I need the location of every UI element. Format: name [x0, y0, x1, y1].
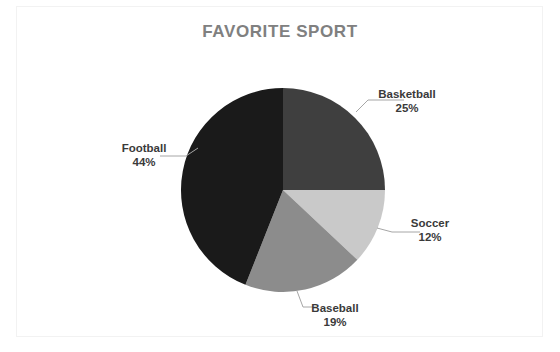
slice-label-baseball-name: Baseball [311, 302, 358, 314]
slice-label-soccer-name: Soccer [411, 217, 449, 229]
slice-label-football-percent: 44% [108, 155, 180, 169]
slice-label-football: Football 44% [108, 141, 180, 169]
pie-graphic [0, 0, 560, 352]
slice-label-soccer-percent: 12% [398, 230, 462, 244]
slice-label-football-name: Football [122, 142, 167, 154]
slice-label-basketball-name: Basketball [378, 88, 436, 100]
slice-label-baseball: Baseball 19% [298, 301, 372, 329]
pie-slices-group [181, 88, 385, 292]
slice-label-basketball-percent: 25% [368, 101, 446, 115]
slice-label-basketball: Basketball 25% [368, 87, 446, 115]
pie-chart-figure: FAVORITE SPORT Basketball 25% Soccer 12%… [0, 0, 560, 352]
slice-label-baseball-percent: 19% [298, 315, 372, 329]
slice-label-soccer: Soccer 12% [398, 216, 462, 244]
